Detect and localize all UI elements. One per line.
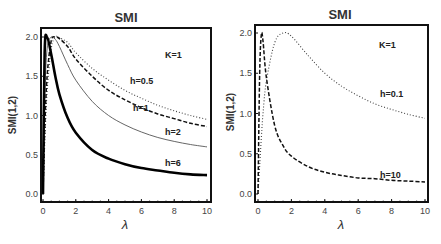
x-tick-label: 10 xyxy=(202,206,212,216)
y-tick-label: 0.0 xyxy=(239,189,252,199)
left-chart: SMI 02468100.00.51.01.52.0 SMI(1,2) λ K=… xyxy=(7,10,212,232)
x-tick-label: 10 xyxy=(420,206,430,216)
x-tick-label: 6 xyxy=(356,206,361,216)
right-chart: SMI 02468100.00.51.01.52.0 SMI(1,2) λ K=… xyxy=(225,7,430,232)
left-chart-title: SMI xyxy=(114,10,137,25)
left-k-annotation: K=1 xyxy=(165,50,182,60)
label-h10: h=10 xyxy=(380,170,401,180)
x-tick-label: 6 xyxy=(139,206,144,216)
right-x-axis-label: λ xyxy=(337,217,344,232)
y-tick-label: 0.0 xyxy=(25,189,38,199)
y-tick-label: 2.0 xyxy=(25,32,38,42)
left-y-axis-label: SMI(1,2) xyxy=(7,96,18,134)
x-tick-label: 4 xyxy=(322,206,327,216)
y-tick-label: 1.5 xyxy=(239,68,252,78)
label-h6: h=6 xyxy=(165,158,181,168)
label-h2: h=2 xyxy=(165,127,181,137)
y-tick-label: 1.5 xyxy=(25,71,38,81)
label-h1: h=1 xyxy=(133,103,149,113)
right-y-axis-label: SMI(1,2) xyxy=(225,93,236,131)
x-tick-label: 4 xyxy=(106,206,111,216)
y-tick-label: 0.5 xyxy=(25,150,38,160)
x-tick-label: 8 xyxy=(389,206,394,216)
label-h05: h=0.5 xyxy=(130,76,153,86)
chart-canvas: SMI 02468100.00.51.01.52.0 SMI(1,2) λ K=… xyxy=(0,0,441,244)
y-tick-label: 1.0 xyxy=(25,111,38,121)
right-chart-title: SMI xyxy=(328,7,351,22)
right-k-annotation: K=1 xyxy=(379,40,396,50)
left-x-axis-label: λ xyxy=(121,217,128,232)
y-tick-label: 0.5 xyxy=(239,149,252,159)
series-h6 xyxy=(43,35,207,194)
label-h01: h=0.1 xyxy=(380,89,403,99)
x-tick-label: 2 xyxy=(289,206,294,216)
x-tick-label: 0 xyxy=(40,206,45,216)
x-tick-label: 8 xyxy=(172,206,177,216)
y-tick-label: 1.0 xyxy=(239,109,252,119)
x-tick-label: 2 xyxy=(73,206,78,216)
x-tick-label: 0 xyxy=(255,206,260,216)
y-tick-label: 2.0 xyxy=(239,28,252,38)
